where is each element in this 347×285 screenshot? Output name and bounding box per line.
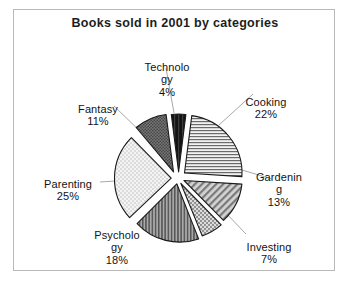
pie-label-gardening-value: 13% (241, 196, 317, 209)
pie-label-psychology-value: 18% (76, 254, 158, 267)
chart-frame: Books sold in 2001 by categories (13, 9, 335, 271)
pie-label-cooking: Cooking 22% (229, 83, 303, 133)
pie-label-psychology-name: Psycholo gy (94, 229, 139, 254)
pie-label-gardening: Gardenin g 13% (241, 158, 317, 221)
pie-slice-technology[interactable] (171, 114, 186, 172)
pie-label-technology-name: Technolo gy (145, 61, 190, 86)
pie-label-fantasy-name: Fantasy (78, 103, 118, 115)
pie-label-parenting-value: 25% (26, 190, 110, 203)
pie-label-investing-value: 7% (229, 253, 309, 266)
pie-label-gardening-name: Gardenin g (256, 171, 302, 196)
pie-label-investing: Investing 7% (229, 228, 309, 278)
pie-label-parenting: Parenting 25% (26, 165, 110, 215)
pie-label-fantasy: Fantasy 11% (60, 90, 136, 140)
pie-label-parenting-name: Parenting (44, 178, 92, 190)
pie-chart: Technolo gy 4% Cooking 22% Gardenin g 13… (14, 10, 336, 272)
pie-label-fantasy-value: 11% (60, 115, 136, 128)
pie-label-psychology: Psycholo gy 18% (76, 216, 158, 279)
pie-label-cooking-name: Cooking (245, 96, 286, 108)
pie-label-investing-name: Investing (247, 241, 292, 253)
pie-label-technology-value: 4% (131, 86, 203, 99)
pie-label-technology: Technolo gy 4% (131, 48, 203, 111)
pie-label-cooking-value: 22% (229, 108, 303, 121)
